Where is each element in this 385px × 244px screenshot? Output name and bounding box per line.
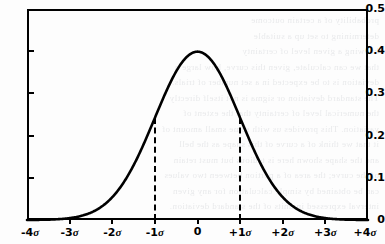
y-axis-tick	[27, 50, 34, 52]
x-axis-tick-label: +4σ	[345, 226, 385, 239]
x-axis-tick	[111, 218, 113, 224]
y-axis-tick	[27, 177, 34, 179]
normal-distribution-figure: probability of a certain outcomedetermin…	[0, 0, 385, 244]
x-axis-tick-label: -1σ	[135, 226, 175, 239]
x-axis-tick	[282, 218, 284, 224]
y-axis-tick	[27, 92, 34, 94]
x-axis-tick-label: -3σ	[50, 226, 90, 239]
minus-one-sigma-dashed-line	[154, 118, 156, 220]
y-axis-tick-label: 0.4	[363, 45, 385, 56]
plus-one-sigma-dashed-line	[239, 118, 241, 220]
x-axis-tick	[69, 218, 71, 224]
y-axis-tick-label: 0	[363, 214, 385, 225]
x-axis-tick-label: +1σ	[220, 226, 260, 239]
y-axis-tick	[27, 135, 34, 137]
x-axis-tick-label: -2σ	[92, 226, 132, 239]
x-axis-tick-label: -4σ	[10, 226, 50, 239]
x-axis-tick-label: +2σ	[263, 226, 303, 239]
x-axis-tick	[197, 218, 199, 224]
y-axis-tick-label: 0.2	[363, 130, 385, 141]
y-axis-tick-label: 0.3	[363, 87, 385, 98]
x-axis-tick-label: +3σ	[305, 226, 345, 239]
x-axis-tick	[324, 218, 326, 224]
x-axis-tick-label: 0	[178, 226, 218, 238]
y-axis-tick-label: 0.1	[363, 172, 385, 183]
plot-frame	[27, 9, 368, 220]
y-axis-tick-label: 0.5	[363, 3, 385, 14]
